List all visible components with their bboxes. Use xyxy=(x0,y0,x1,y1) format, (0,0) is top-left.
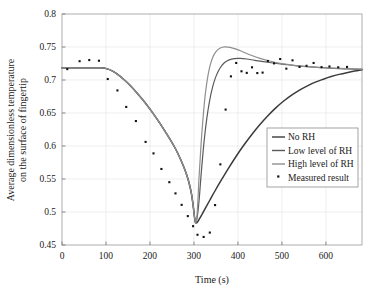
data-point-marker xyxy=(145,141,147,143)
x-tick-label: 200 xyxy=(143,251,158,261)
y-axis-title-line1: Average dimensionless temperature xyxy=(5,58,16,201)
y-axis-title-line2: on the surface of fingertip xyxy=(17,78,28,182)
data-point-marker xyxy=(152,152,154,154)
data-point-marker xyxy=(256,72,258,74)
x-axis-title: Time (s) xyxy=(195,274,229,286)
x-tick-label: 300 xyxy=(187,251,202,261)
y-tick-label: 0.6 xyxy=(44,141,56,151)
data-point-marker xyxy=(196,234,198,236)
data-point-marker xyxy=(225,109,227,111)
data-point-marker xyxy=(219,163,221,165)
x-axis-tick-labels: 0100200300400500600 xyxy=(60,251,334,261)
data-point-marker xyxy=(285,68,287,70)
data-point-marker xyxy=(246,72,248,74)
data-point-marker xyxy=(298,66,300,68)
data-point-marker xyxy=(192,225,194,227)
y-tick-label: 0.75 xyxy=(39,42,56,52)
data-point-marker xyxy=(251,66,253,68)
data-point-marker xyxy=(214,204,216,206)
x-tick-label: 600 xyxy=(319,251,334,261)
y-tick-label: 0.8 xyxy=(44,9,56,19)
data-point-marker xyxy=(107,78,109,80)
legend-label: Measured result xyxy=(288,173,349,183)
data-point-marker xyxy=(168,181,170,183)
data-point-marker xyxy=(306,65,308,67)
x-tick-label: 500 xyxy=(275,251,290,261)
legend-marker-swatch xyxy=(277,175,279,177)
legend-label: High level of RH xyxy=(288,159,354,169)
figure-container: 0.450.50.550.60.650.70.750.8 01002003004… xyxy=(0,0,382,294)
data-point-marker xyxy=(235,62,237,64)
legend-label: Low level of RH xyxy=(288,146,352,156)
data-point-marker xyxy=(273,62,275,64)
data-point-marker xyxy=(88,59,90,61)
x-tick-label: 100 xyxy=(99,251,114,261)
data-point-marker xyxy=(240,70,242,72)
data-point-marker xyxy=(313,62,315,64)
data-point-marker xyxy=(160,168,162,170)
data-point-marker xyxy=(174,192,176,194)
chart-canvas: 0.450.50.550.60.650.70.750.8 01002003004… xyxy=(0,0,382,294)
data-point-marker xyxy=(279,58,281,60)
data-point-marker xyxy=(98,60,100,62)
y-tick-label: 0.45 xyxy=(39,240,56,250)
data-point-marker xyxy=(291,59,293,61)
data-point-marker xyxy=(267,60,269,62)
data-point-marker xyxy=(135,120,137,122)
y-tick-label: 0.55 xyxy=(39,174,56,184)
data-point-marker xyxy=(230,75,232,77)
y-tick-label: 0.7 xyxy=(44,75,56,85)
data-point-marker xyxy=(79,60,81,62)
y-tick-label: 0.65 xyxy=(39,108,56,118)
data-point-marker xyxy=(320,66,322,68)
data-point-marker xyxy=(187,215,189,217)
chart-legend: No RHLow level of RHHigh level of RHMeas… xyxy=(267,128,358,187)
data-point-marker xyxy=(66,68,68,70)
data-point-marker xyxy=(337,66,339,68)
x-tick-label: 0 xyxy=(60,251,65,261)
data-point-marker xyxy=(346,66,348,68)
data-point-marker xyxy=(116,89,118,91)
data-point-marker xyxy=(209,232,211,234)
data-point-marker xyxy=(203,236,205,238)
x-tick-label: 400 xyxy=(231,251,246,261)
legend-label: No RH xyxy=(288,132,315,142)
data-point-marker xyxy=(181,204,183,206)
data-point-marker xyxy=(328,65,330,67)
y-axis-tick-labels: 0.450.50.550.60.650.70.750.8 xyxy=(39,9,56,250)
y-tick-label: 0.5 xyxy=(44,207,56,217)
data-point-marker xyxy=(125,106,127,108)
data-point-marker xyxy=(262,72,264,74)
